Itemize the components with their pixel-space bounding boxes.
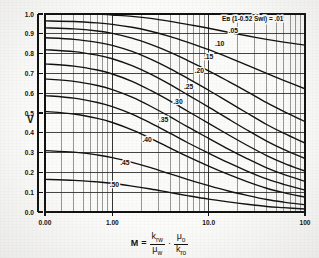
- curve-label: .45: [120, 159, 130, 166]
- frac2-denominator: kro: [174, 245, 188, 257]
- x-tick-label: 1.00: [106, 219, 119, 226]
- curve-label: .10: [215, 40, 225, 47]
- x-axis-title-dot: ·: [165, 238, 174, 248]
- y-tick-label: 0.1: [25, 189, 34, 196]
- frac1-denominator: μw: [150, 245, 165, 257]
- y-tick-label: 0.9: [25, 30, 34, 37]
- data-curve: [45, 79, 305, 181]
- curve-label: .20: [195, 67, 205, 74]
- curve-label: .15: [204, 53, 214, 60]
- curve-group: [45, 14, 305, 209]
- frac1-num-sub: rw: [156, 236, 163, 243]
- curve-label: .35: [159, 116, 169, 123]
- x-axis-title-equals: =: [138, 238, 149, 248]
- frac2-num-sub: o: [182, 236, 186, 243]
- y-tick-label: 0.4: [25, 129, 34, 136]
- frac2-den-sub: ro: [180, 248, 186, 255]
- curve-label: .50: [110, 181, 120, 188]
- y-tick-label: 0.6: [25, 90, 34, 97]
- chart-annotation: Eʙ (1-0.52 Swi) = .01: [222, 15, 284, 23]
- y-axis-title: V: [27, 114, 34, 125]
- x-tick-label: 10.0: [202, 219, 215, 226]
- data-curve: [45, 151, 305, 205]
- x-tick-label-group: 0.001.0010.0100: [39, 219, 311, 226]
- y-tick-label: 0.7: [25, 70, 34, 77]
- x-axis-fraction-2: μokro: [174, 232, 188, 256]
- vertical-coverage-chart: .01.01.05.05.10.10.15.15.20.20.25.25.30.…: [0, 0, 319, 258]
- chart-annotation-group: Eʙ (1-0.52 Swi) = .01Eʙ (1-0.52 Swi) = .…: [222, 15, 284, 23]
- x-axis-fraction-1: krwμw: [150, 232, 165, 256]
- curve-label: .40: [142, 136, 152, 143]
- x-axis-title: M=krwμw·μokro: [0, 232, 319, 256]
- data-curve: [45, 179, 305, 209]
- y-tick-label: 0.3: [25, 149, 34, 156]
- frac1-den-sub: w: [157, 248, 162, 255]
- curve-label: .25: [184, 83, 194, 90]
- y-tick-label: 0.8: [25, 50, 34, 57]
- y-tick-label: 1.0: [25, 11, 34, 18]
- curve-label: .30: [173, 98, 183, 105]
- x-tick-label: 100: [299, 219, 310, 226]
- data-curve: [45, 64, 305, 171]
- curve-label: .05: [229, 27, 239, 34]
- data-curve: [45, 28, 305, 122]
- chart-figure: .01.01.05.05.10.10.15.15.20.20.25.25.30.…: [0, 0, 319, 258]
- x-tick-label: 0.00: [39, 219, 52, 226]
- grid-major: [45, 14, 305, 212]
- y-tick-label: 0.2: [25, 169, 34, 176]
- y-tick-label: 0.0: [25, 209, 34, 216]
